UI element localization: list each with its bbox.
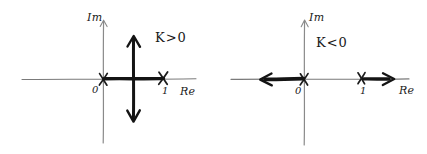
panel-k-negative: Im Re 0 1 K<0 — [213, 0, 427, 154]
right-gain-condition-label: K<0 — [316, 36, 348, 49]
root-locus-figure: Im Re 0 1 K>0 — [0, 0, 427, 154]
panel-left-canvas — [0, 0, 213, 154]
left-pole-label-1: 1 — [162, 86, 168, 96]
left-pole-label-0: 0 — [92, 85, 98, 95]
right-pole-label-0: 0 — [295, 86, 301, 96]
locus-left-branch — [265, 79, 304, 80]
left-imaginary-axis-label: Im — [87, 12, 102, 23]
right-imaginary-axis-label: Im — [309, 12, 324, 23]
right-pole-label-1: 1 — [360, 86, 366, 96]
right-real-axis-label: Re — [399, 85, 414, 96]
panel-k-positive: Im Re 0 1 K>0 — [0, 0, 213, 154]
left-real-axis-label: Re — [180, 86, 195, 97]
left-gain-condition-label: K>0 — [155, 31, 187, 44]
